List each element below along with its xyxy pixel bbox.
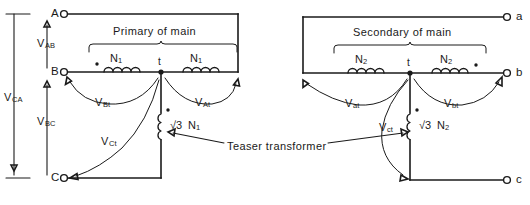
teaser-prefix-left: √3 xyxy=(170,119,182,131)
voltage-sub-vbt2: bt xyxy=(452,101,459,110)
bracket-primary-of-main xyxy=(89,41,237,52)
voltage-label-vat: V xyxy=(195,96,203,108)
voltage-label-vct2: V xyxy=(379,121,387,133)
winding-label-n2-left: N xyxy=(355,53,363,65)
voltage-sub-vbt: Bt xyxy=(103,100,111,109)
bracket-secondary-of-main xyxy=(334,42,486,53)
terminal-label-b: b xyxy=(516,66,522,78)
winding-sub-n2-left: 2 xyxy=(363,57,367,66)
terminal-c xyxy=(504,177,511,184)
teaser-prefix-right: √3 xyxy=(419,119,431,131)
terminal-label-a: a xyxy=(516,10,523,22)
voltage-label-vat2: V xyxy=(345,97,353,109)
winding-label-n1-right: N xyxy=(190,52,198,64)
terminal-label-C: C xyxy=(51,171,59,183)
center-tap-node-right xyxy=(407,70,412,75)
leader-teaser-left xyxy=(173,133,224,143)
voltage-sub-vbc: BC xyxy=(45,119,56,128)
voltage-label-vab: V xyxy=(37,37,45,49)
arrowhead-vat xyxy=(234,79,240,86)
polarity-dot-teaser-left xyxy=(166,108,169,111)
center-tap-label-right: t xyxy=(407,57,410,68)
voltage-sub-vct: Ct xyxy=(109,139,117,148)
winding-sub-n1-right: 1 xyxy=(198,56,202,65)
center-tap-node-left xyxy=(158,69,163,74)
voltage-sub-vat2: at xyxy=(353,101,360,110)
teaser-label-left: N xyxy=(188,119,196,131)
title-secondary-of-main: Secondary of main xyxy=(353,26,452,38)
voltage-sub-vab: AB xyxy=(45,41,55,50)
center-tap-label-left: t xyxy=(158,56,161,67)
voltage-sub-vca: CA xyxy=(12,95,22,104)
terminal-label-c: c xyxy=(516,173,522,185)
terminal-b xyxy=(504,70,511,77)
voltage-label-vbt2: V xyxy=(444,97,452,109)
teaser-sub-right: 2 xyxy=(445,123,449,132)
winding-teaser-left xyxy=(158,114,161,140)
title-primary-of-main: Primary of main xyxy=(113,25,196,37)
terminal-label-A: A xyxy=(51,7,59,19)
winding-label-n1-left: N xyxy=(110,52,118,64)
arrowhead-vct xyxy=(70,174,78,180)
annotation-teaser-transformer: Teaser transformer xyxy=(227,140,327,152)
terminal-A xyxy=(61,11,68,18)
voltage-label-vca: V xyxy=(4,91,12,103)
winding-sub-n2-right: 2 xyxy=(448,57,452,66)
voltage-sub-vat: At xyxy=(203,100,211,109)
winding-sub-n1-left: 1 xyxy=(118,56,122,65)
scott-connection-diagram: A B C t Primary of main N 1 N 1 √3 N 1 V… xyxy=(0,0,530,205)
polarity-dot-n1-left xyxy=(95,62,98,65)
terminal-B xyxy=(61,69,68,76)
winding-label-n2-right: N xyxy=(440,53,448,65)
leader-teaser-right xyxy=(328,133,403,143)
teaser-label-right: N xyxy=(437,119,445,131)
terminal-C xyxy=(61,175,68,182)
teaser-sub-left: 1 xyxy=(196,123,200,132)
terminal-a xyxy=(504,14,511,21)
schematic-canvas: A B C t Primary of main N 1 N 1 √3 N 1 V… xyxy=(0,0,530,205)
terminal-label-B: B xyxy=(51,65,59,77)
voltage-label-vbc: V xyxy=(37,115,45,127)
arc-vbt xyxy=(70,78,158,104)
winding-teaser-right xyxy=(407,114,410,140)
arrowhead-vat2 xyxy=(303,80,309,88)
voltage-label-vct: V xyxy=(101,135,109,147)
polarity-dot-n2-right xyxy=(474,63,477,66)
arrowhead-vct2 xyxy=(400,175,408,181)
voltage-label-vbt: V xyxy=(95,96,103,108)
polarity-dot-teaser-right xyxy=(415,108,418,111)
arc-vct xyxy=(76,80,159,176)
voltage-sub-vct2: ct xyxy=(387,125,394,134)
